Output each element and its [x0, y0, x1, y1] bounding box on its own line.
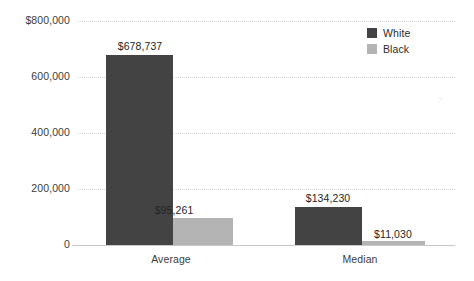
x-axis-label-median: Median: [320, 253, 400, 265]
bar-label-average-black: $95,261: [130, 204, 218, 216]
y-axis-tick-label: $800,000: [8, 14, 70, 26]
gridline-800000: [78, 21, 455, 22]
y-axis-tick-label: 600,000: [8, 70, 70, 82]
legend-item-black[interactable]: Black: [367, 42, 410, 56]
bar-median-black[interactable]: [362, 241, 425, 245]
y-axis-tick-label: 0: [8, 238, 70, 250]
bar-label-median-black: $11,030: [349, 228, 437, 240]
legend-label-black: Black: [383, 43, 409, 55]
bar-label-median-white: $134,230: [284, 192, 372, 204]
bar-average-white[interactable]: [106, 55, 173, 245]
x-axis-label-average: Average: [131, 253, 211, 265]
scan-artifact: ?: [437, 95, 442, 105]
legend-label-white: White: [383, 27, 410, 39]
y-axis-tick-label: 200,000: [8, 182, 70, 194]
legend-swatch-black-icon: [367, 44, 377, 54]
x-axis-baseline: [72, 245, 455, 246]
bar-chart: $800,000 600,000 400,000 200,000 0 $678,…: [0, 0, 474, 281]
bar-label-average-white: $678,737: [96, 40, 184, 52]
bar-average-black[interactable]: [173, 218, 233, 245]
legend: White Black: [367, 26, 410, 58]
legend-swatch-white-icon: [367, 28, 377, 38]
y-axis-tick-label: 400,000: [8, 126, 70, 138]
legend-item-white[interactable]: White: [367, 26, 410, 40]
